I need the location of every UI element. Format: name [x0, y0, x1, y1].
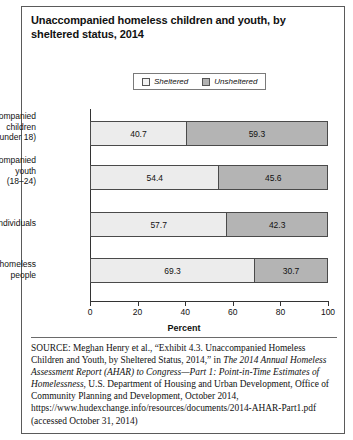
figure-panel: Unaccompanied homeless children and yout…	[21, 6, 345, 434]
x-axis-tick-label: 40	[180, 307, 189, 317]
category-label-unaccompanied-youth: Unaccompanied youth (18–24)	[0, 155, 36, 187]
table-row: 40.7 59.3	[90, 121, 328, 146]
x-axis-tick	[328, 301, 329, 306]
x-axis-tick	[90, 301, 91, 306]
category-label-line: Unaccompanied	[0, 111, 36, 122]
x-axis-tick	[280, 301, 281, 306]
category-label-line: All homeless	[0, 259, 36, 270]
category-label-line: All individuals	[0, 218, 36, 229]
x-axis-tick-label: 80	[276, 307, 285, 317]
category-label-line: (18–24)	[0, 176, 36, 187]
bar-segment-sheltered[interactable]: 69.3	[90, 258, 255, 283]
legend-label-sheltered: Sheltered	[154, 77, 188, 86]
source-note: SOURCE: Meghan Henry et al., “Exhibit 4.…	[31, 342, 337, 427]
bar-segment-sheltered[interactable]: 57.7	[90, 212, 227, 237]
x-axis-title: Percent	[22, 323, 346, 333]
category-label-line: (under 18)	[0, 132, 36, 143]
x-axis-tick-label: 100	[321, 307, 335, 317]
chart-plot-area: 40.7 59.3 54.4 45.6 57.7 42.3 69.3 30.7 …	[90, 109, 328, 301]
bar-segment-unsheltered[interactable]: 42.3	[227, 212, 328, 237]
category-label-all-individuals: All individuals	[0, 218, 36, 229]
category-label-line: Unaccompanied	[0, 155, 36, 166]
table-row: 57.7 42.3	[90, 212, 328, 237]
x-axis-tick	[233, 301, 234, 306]
bar-segment-sheltered[interactable]: 40.7	[90, 121, 187, 146]
bar-segment-unsheltered[interactable]: 59.3	[187, 121, 328, 146]
x-axis-tick-label: 60	[228, 307, 237, 317]
chart-legend: Sheltered Unsheltered	[133, 73, 266, 90]
x-axis-line	[90, 301, 328, 302]
legend-swatch-sheltered-icon	[142, 78, 150, 86]
source-divider	[31, 337, 337, 338]
legend-entry-unsheltered: Unsheltered	[202, 77, 257, 86]
bar-segment-unsheltered[interactable]: 45.6	[219, 165, 328, 190]
source-label: SOURCE:	[31, 343, 71, 353]
bar-segment-unsheltered[interactable]: 30.7	[255, 258, 328, 283]
table-row: 69.3 30.7	[90, 258, 328, 283]
x-axis-tick	[185, 301, 186, 306]
bar-segment-sheltered[interactable]: 54.4	[90, 165, 219, 190]
legend-entry-sheltered: Sheltered	[142, 77, 188, 86]
legend-label-unsheltered: Unsheltered	[214, 77, 257, 86]
x-axis-tick	[138, 301, 139, 306]
table-row: 54.4 45.6	[90, 165, 328, 190]
category-label-line: people	[0, 270, 36, 281]
page-title: Unaccompanied homeless children and yout…	[31, 13, 331, 41]
legend-swatch-unsheltered-icon	[202, 78, 210, 86]
category-label-unaccompanied-children: Unaccompanied children (under 18)	[0, 111, 36, 143]
category-label-line: children	[0, 122, 36, 133]
x-axis-tick-label: 20	[133, 307, 142, 317]
x-axis-tick-label: 0	[88, 307, 93, 317]
category-label-all-homeless-people: All homeless people	[0, 259, 36, 280]
category-label-line: youth	[0, 166, 36, 177]
